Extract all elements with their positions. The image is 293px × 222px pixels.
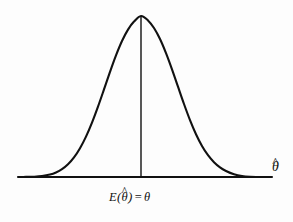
axis-label-symbol: θ [272,159,279,174]
equals-sign: = [133,190,144,204]
expectation-symbol: E [109,190,117,204]
close-paren: ) [128,189,133,204]
axis-label-hatted: ^θ [272,159,279,175]
x-axis-label: ^θ [272,159,279,175]
parameter-symbol: θ [144,190,150,204]
estimator-symbol: θ [122,190,128,204]
estimator-symbol-hatted: ^θ [122,190,128,205]
mean-equation-label: E(^θ)=θ [109,189,150,205]
